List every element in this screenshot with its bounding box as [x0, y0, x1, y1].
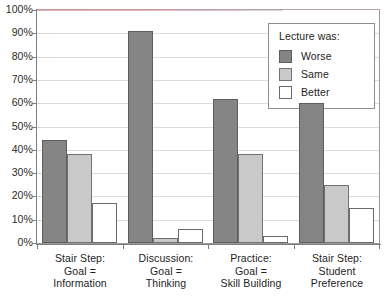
y-axis-tick-label: 90%	[0, 26, 33, 38]
y-axis-tick-label: 30%	[0, 166, 33, 178]
x-axis-group-label-line: Stair Step:	[294, 252, 380, 265]
bar-worse	[42, 140, 67, 243]
gridline	[37, 127, 379, 128]
bar-better	[263, 236, 288, 243]
y-axis-tick-mark	[32, 196, 36, 197]
legend-label: Same	[301, 68, 329, 80]
x-axis-group-label: Stair Step:StudentPreference	[294, 252, 380, 290]
legend: Lecture was: WorseSameBetter	[268, 23, 375, 109]
y-axis-line	[36, 9, 37, 245]
x-axis-group-label-line: Goal =	[37, 265, 123, 278]
bar-better	[178, 229, 203, 243]
y-axis-tick-mark	[32, 243, 36, 244]
legend-items: WorseSameBetter	[279, 47, 374, 101]
y-axis-tick-mark	[32, 220, 36, 221]
y-axis-tick-label: 20%	[0, 189, 33, 201]
x-axis-group-label-line: Stair Step:	[37, 252, 123, 265]
y-axis-tick-label: 70%	[0, 73, 33, 85]
bar-same	[153, 238, 178, 243]
legend-title: Lecture was:	[279, 30, 374, 42]
y-axis-tick-mark	[32, 10, 36, 11]
bar-worse	[299, 103, 324, 243]
y-axis-tick-mark	[32, 57, 36, 58]
x-axis-tick-mark	[294, 245, 295, 249]
bar-better	[92, 203, 117, 243]
bar-better	[349, 208, 374, 243]
y-axis-tick-label: 60%	[0, 96, 33, 108]
legend-item-same: Same	[279, 65, 374, 83]
x-axis-group-label-line: Practice:	[208, 252, 294, 265]
plot-top-edge-tint	[37, 10, 283, 11]
x-axis-tick-mark	[123, 245, 124, 249]
x-axis-group-label-line: Student	[294, 265, 380, 278]
x-axis-group-label-line: Goal =	[123, 265, 209, 278]
bar-chart: Lecture was: WorseSameBetter 100%90%80%7…	[0, 0, 384, 301]
bar-same	[67, 154, 92, 243]
legend-swatch-same	[279, 68, 292, 81]
x-axis-tick-mark	[37, 245, 38, 249]
x-axis-tick-mark	[208, 245, 209, 249]
plot-area: Lecture was: WorseSameBetter	[36, 9, 380, 244]
x-axis-tick-mark	[379, 245, 380, 249]
y-axis-tick-label: 10%	[0, 213, 33, 225]
y-axis-tick-label: 100%	[0, 3, 33, 15]
legend-label: Better	[301, 86, 330, 98]
legend-swatch-worse	[279, 50, 292, 63]
y-axis-tick-mark	[32, 173, 36, 174]
y-axis-tick-label: 80%	[0, 50, 33, 62]
x-axis-group-label-line: Preference	[294, 277, 380, 290]
y-axis-tick-mark	[32, 33, 36, 34]
bar-same	[238, 154, 263, 243]
x-axis-group-label-line: Thinking	[123, 277, 209, 290]
y-axis-tick-mark	[32, 80, 36, 81]
bar-same	[324, 185, 349, 243]
legend-item-better: Better	[279, 83, 374, 101]
legend-label: Worse	[301, 50, 332, 62]
y-axis-tick-label: 40%	[0, 143, 33, 155]
x-axis-group-label: Discussion:Goal =Thinking	[123, 252, 209, 290]
x-axis-group-label: Stair Step:Goal =Information	[37, 252, 123, 290]
legend-swatch-better	[279, 86, 292, 99]
y-axis-tick-mark	[32, 127, 36, 128]
y-axis-tick-label: 50%	[0, 120, 33, 132]
x-axis-group-label-line: Skill Building	[208, 277, 294, 290]
bar-worse	[213, 99, 238, 243]
x-axis-group-label-line: Goal =	[208, 265, 294, 278]
x-axis-group-label-line: Discussion:	[123, 252, 209, 265]
y-axis-tick-mark	[32, 103, 36, 104]
y-axis-tick-mark	[32, 150, 36, 151]
bar-worse	[128, 31, 153, 243]
legend-item-worse: Worse	[279, 47, 374, 65]
x-axis-group-label-line: Information	[37, 277, 123, 290]
x-axis-group-label: Practice:Goal =Skill Building	[208, 252, 294, 290]
gridline	[37, 150, 379, 151]
y-axis-tick-label: 0%	[0, 236, 33, 248]
